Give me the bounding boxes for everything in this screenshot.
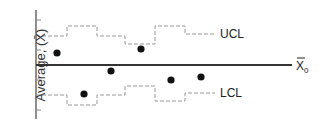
data-point xyxy=(167,76,174,83)
center-label-sub: 0 xyxy=(304,66,309,75)
center-line-label: X 0 xyxy=(296,58,309,75)
data-point xyxy=(80,90,87,97)
data-point xyxy=(107,67,114,74)
data-point xyxy=(197,73,204,80)
control-chart: UCL LCL X 0 xyxy=(0,0,324,130)
lcl-step-line xyxy=(36,86,215,105)
y-axis-label: Average, (X̄) xyxy=(33,29,48,102)
sample-points xyxy=(53,45,204,97)
data-point xyxy=(53,49,60,56)
ucl-step-line xyxy=(36,26,215,44)
ucl-label: UCL xyxy=(220,27,244,41)
lcl-label: LCL xyxy=(220,86,242,100)
data-point xyxy=(137,45,144,52)
center-label-x: X xyxy=(296,59,304,73)
